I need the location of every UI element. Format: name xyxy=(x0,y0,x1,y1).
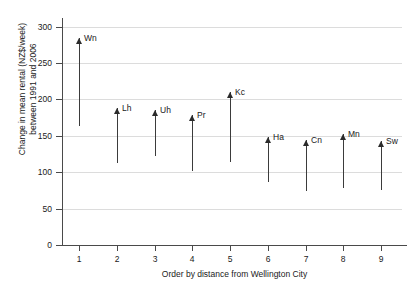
gridline xyxy=(62,172,402,173)
x-tick xyxy=(381,246,382,251)
y-tick-label: 250 xyxy=(38,59,52,68)
gridline xyxy=(62,209,402,210)
x-tick-label: 2 xyxy=(107,254,127,264)
x-tick-label: 8 xyxy=(333,254,353,264)
x-tick-label: 9 xyxy=(371,254,391,264)
x-tick-label: 5 xyxy=(220,254,240,264)
y-tick xyxy=(56,209,62,210)
gridline xyxy=(62,99,402,100)
arrow-shaft xyxy=(306,140,307,191)
arrow-shaft xyxy=(192,115,193,171)
arrow-head xyxy=(340,134,346,140)
x-tick xyxy=(343,246,344,251)
y-tick-label: 200 xyxy=(38,95,52,104)
arrow-head xyxy=(378,141,384,147)
arrow-label: Uh xyxy=(160,106,171,115)
arrow-label: Mn xyxy=(348,130,360,139)
y-tick xyxy=(56,99,62,100)
arrow-label: Lh xyxy=(122,104,131,113)
y-tick xyxy=(56,172,62,173)
x-tick-label: 4 xyxy=(182,254,202,264)
arrow-shaft xyxy=(79,38,80,126)
x-tick xyxy=(230,246,231,251)
y-axis-label-line-2: between 1991 and 2006 xyxy=(28,0,39,189)
arrow-label: Kc xyxy=(235,88,245,97)
arrow-head xyxy=(265,137,271,143)
y-axis-label: Change in mean rental (NZ$/week) between… xyxy=(17,0,39,189)
y-tick-label: 100 xyxy=(38,168,52,177)
arrow-shaft xyxy=(117,108,118,163)
x-tick-label: 6 xyxy=(258,254,278,264)
arrow-label: Ha xyxy=(273,133,284,142)
gridline xyxy=(62,27,402,28)
gridline xyxy=(62,63,402,64)
arrow-head xyxy=(303,140,309,146)
rental-change-chart: 050100150200250300 123456789 WnLhUhPrKcH… xyxy=(0,0,416,291)
y-tick-label: 0 xyxy=(47,241,52,250)
y-axis-line xyxy=(62,18,63,245)
arrow-label: Pr xyxy=(197,111,206,120)
y-tick-label: 150 xyxy=(38,132,52,141)
y-axis-label-line-1: Change in mean rental (NZ$/week) xyxy=(17,0,28,189)
arrow-head xyxy=(227,92,233,98)
y-tick-label: 50 xyxy=(43,205,52,214)
x-tick xyxy=(117,246,118,251)
arrow-shaft xyxy=(155,110,156,156)
x-tick xyxy=(192,246,193,251)
x-tick-label: 1 xyxy=(69,254,89,264)
arrow-label: Cn xyxy=(311,136,322,145)
y-tick xyxy=(56,63,62,64)
arrow-head xyxy=(76,38,82,44)
arrow-shaft xyxy=(230,92,231,162)
arrow-label: Sw xyxy=(386,137,398,146)
arrow-head xyxy=(114,108,120,114)
y-tick xyxy=(56,27,62,28)
arrow-shaft xyxy=(343,134,344,188)
arrow-head xyxy=(189,115,195,121)
x-axis-line xyxy=(62,245,407,246)
x-tick xyxy=(79,246,80,251)
x-tick-label: 7 xyxy=(296,254,316,264)
x-tick-label: 3 xyxy=(145,254,165,264)
x-tick xyxy=(155,246,156,251)
arrow-shaft xyxy=(268,137,269,182)
y-tick xyxy=(56,136,62,137)
arrow-head xyxy=(152,110,158,116)
y-tick-label: 300 xyxy=(38,23,52,32)
x-tick xyxy=(306,246,307,251)
arrow-shaft xyxy=(381,141,382,190)
arrow-label: Wn xyxy=(84,34,97,43)
x-tick xyxy=(268,246,269,251)
x-axis-label: Order by distance from Wellington City xyxy=(62,269,407,279)
